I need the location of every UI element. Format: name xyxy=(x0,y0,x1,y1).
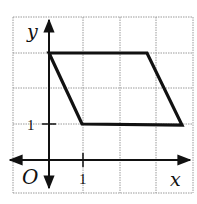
parallelogram xyxy=(49,53,182,125)
coordinate-plane: y x O 1 1 xyxy=(0,0,197,204)
x-tick-label-1: 1 xyxy=(79,171,87,187)
x-axis-label: x xyxy=(170,168,181,190)
y-axis-label: y xyxy=(26,20,38,42)
grid xyxy=(13,17,193,193)
y-tick-label-1: 1 xyxy=(27,117,35,133)
origin-label: O xyxy=(22,165,38,189)
